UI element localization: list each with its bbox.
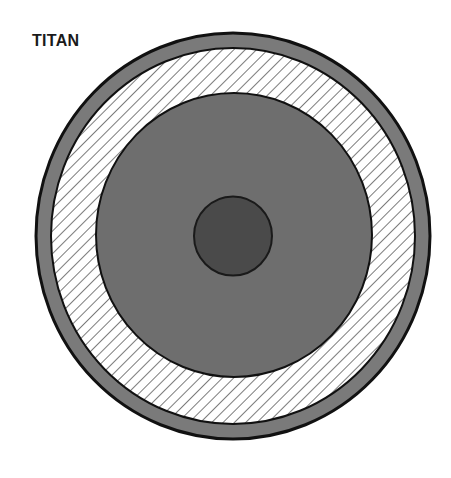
core-layer [194,197,272,276]
titan-cross-section [0,0,451,478]
